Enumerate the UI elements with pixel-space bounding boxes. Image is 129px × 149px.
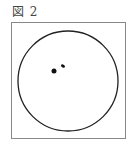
dot-large xyxy=(52,69,57,74)
figure-frame xyxy=(12,23,126,139)
figure-diagram xyxy=(0,0,129,149)
circle-outline xyxy=(18,31,118,131)
dot-small xyxy=(60,64,65,69)
